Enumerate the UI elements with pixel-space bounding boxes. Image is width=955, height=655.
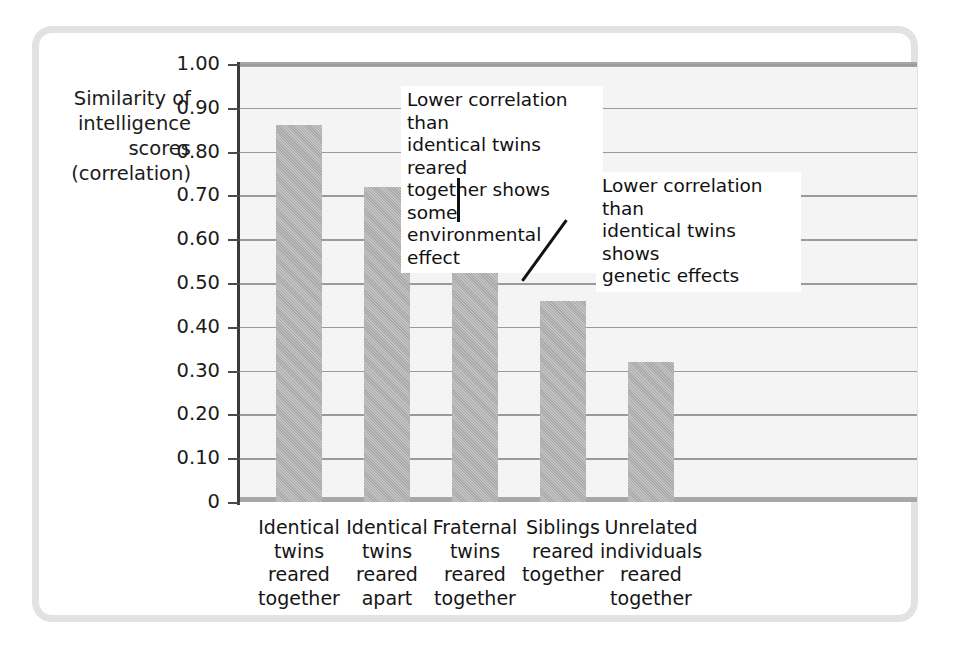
bar	[628, 362, 674, 502]
y-axis-tick-label: 0.30	[150, 361, 220, 381]
y-axis-tick	[228, 327, 240, 329]
y-axis-tick	[228, 283, 240, 285]
y-axis-tick-label: 0.50	[150, 273, 220, 293]
annotation-environmental-effect: Lower correlation than identical twins r…	[401, 86, 603, 273]
y-axis-tick	[228, 414, 240, 416]
y-axis-tick	[228, 371, 240, 373]
y-axis-tick-label: 0.80	[150, 142, 220, 162]
y-axis-tick-label: 0.20	[150, 404, 220, 424]
annotation-genetic-effects: Lower correlation than identical twins s…	[596, 172, 801, 292]
x-axis-category-label: Unrelated individuals reared together	[591, 516, 711, 610]
y-axis-tick-label: 0.60	[150, 229, 220, 249]
y-axis-tick-label: 1.00	[150, 54, 220, 74]
y-axis-tick	[228, 239, 240, 241]
y-axis-tick-label: 0.10	[150, 448, 220, 468]
bar	[276, 125, 322, 502]
bar	[452, 239, 498, 502]
gridline	[237, 64, 917, 66]
y-axis-tick-label: 0.40	[150, 317, 220, 337]
y-axis-tick	[228, 152, 240, 154]
bar	[540, 301, 586, 502]
gridline	[237, 283, 917, 285]
y-axis-tick	[228, 458, 240, 460]
y-axis-tick-label: 0.70	[150, 185, 220, 205]
y-axis-tick	[228, 195, 240, 197]
y-axis-tick	[228, 64, 240, 66]
y-axis-tick	[228, 502, 240, 504]
y-axis-tick-label: 0	[150, 492, 220, 512]
y-axis-tick	[228, 108, 240, 110]
annotation-1-leader-line	[457, 178, 460, 222]
y-axis-tick-label: 0.90	[150, 98, 220, 118]
